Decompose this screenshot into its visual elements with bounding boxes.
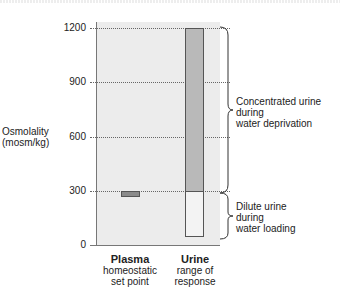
y-title-line2: (mosm/kg) [2,137,49,148]
top-border [0,0,340,3]
note-line: Concentrated urine [236,96,321,107]
concentrated-urine-note: Concentrated urine during water deprivat… [236,96,321,129]
y-axis-title: Osmolality (mosm/kg) [2,126,49,148]
plasma-title: Plasma [111,253,150,265]
note-line: during [236,107,321,118]
y-tick-label-300: 300 [46,185,86,196]
gridline-300 [90,191,230,192]
y-tick-label-600: 600 [46,131,86,142]
note-line: Dilute urine [236,201,295,212]
y-title-line1: Osmolality [2,126,49,137]
y-tick-label-0: 0 [46,239,86,250]
urine-title: Urine [181,253,209,265]
urine-label: Urine range of response [160,254,230,287]
urine-subtitle-2: response [160,276,230,287]
plasma-label: Plasma homeostatic set point [95,254,165,287]
y-tick-label-1200: 1200 [46,22,86,33]
plasma-subtitle-2: set point [95,276,165,287]
note-line: water loading [236,223,295,234]
plasma-subtitle-1: homeostatic [95,265,165,276]
y-axis [96,22,97,246]
dilute-urine-note: Dilute urine during water loading [236,201,295,234]
note-line: during [236,212,295,223]
brace-concentrated-icon [218,26,234,194]
x-axis [96,245,220,246]
gridline-1200 [90,28,230,29]
note-line: water deprivation [236,118,321,129]
urine-subtitle-1: range of [160,265,230,276]
urine-bar-dilute [185,191,204,237]
brace-dilute-icon [218,192,234,240]
urine-bar-concentrated [185,28,204,192]
y-tick-label-900: 900 [46,76,86,87]
gridline-900 [90,82,230,83]
gridline-600 [90,137,230,138]
plasma-bar [121,191,140,197]
